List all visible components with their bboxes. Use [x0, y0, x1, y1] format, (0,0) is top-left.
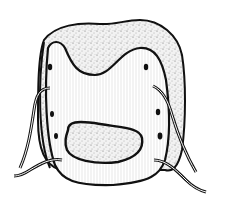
hole-right-3	[158, 133, 163, 140]
stippled-oval-window	[65, 122, 142, 163]
hole-left-1	[48, 64, 52, 70]
illustration-svg	[0, 0, 227, 212]
hole-right-1	[144, 64, 148, 70]
hole-left-3	[54, 133, 58, 139]
hole-right-2	[156, 109, 160, 115]
hole-left-2	[50, 111, 54, 117]
illustration	[0, 0, 227, 212]
